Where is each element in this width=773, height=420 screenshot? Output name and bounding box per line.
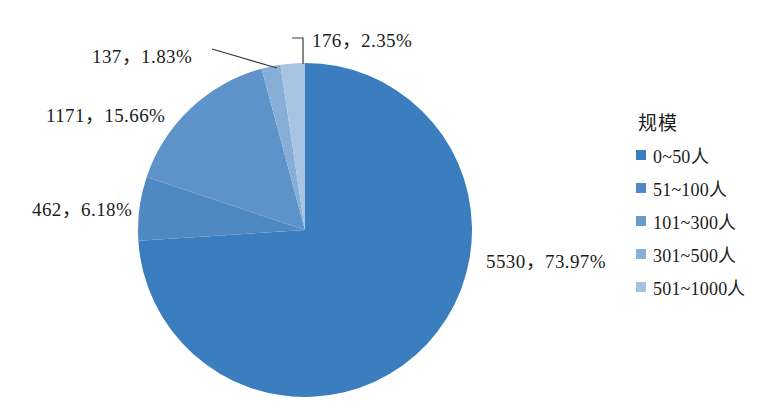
legend-title: 规模	[638, 108, 771, 135]
leader-line-176	[292, 38, 303, 64]
slice-label-51-100: 462，6.18%	[32, 194, 132, 221]
legend-swatch-icon	[636, 282, 646, 292]
legend-item-label: 101~300人	[653, 208, 736, 234]
slice-label-301-500: 137，1.83%	[92, 41, 192, 68]
legend-swatch-icon	[636, 150, 646, 160]
legend-item-label: 0~50人	[653, 142, 709, 168]
legend-item-label: 501~1000人	[653, 274, 746, 300]
leader-lines-group	[212, 38, 303, 68]
legend-item[interactable]: 0~50人	[636, 145, 771, 165]
slice-label-0-50: 5530，73.97%	[486, 246, 606, 273]
legend-item-label: 51~100人	[653, 175, 727, 201]
pie-slices-group	[138, 63, 472, 397]
legend-items: 0~50人51~100人101~300人301~500人501~1000人	[636, 145, 771, 297]
slice-label-501-1000: 176，2.35%	[312, 25, 412, 52]
legend-swatch-icon	[636, 216, 646, 226]
leader-line-137	[212, 49, 277, 68]
legend-item[interactable]: 301~500人	[636, 244, 771, 264]
pie-chart-figure: 176，2.35% 137，1.83% 1171，15.66% 462，6.18…	[0, 0, 773, 420]
legend-item[interactable]: 501~1000人	[636, 277, 771, 297]
legend-swatch-icon	[636, 249, 646, 259]
legend-item-label: 301~500人	[653, 241, 736, 267]
legend-swatch-icon	[636, 183, 646, 193]
slice-label-101-300: 1171，15.66%	[46, 100, 165, 127]
legend-item[interactable]: 51~100人	[636, 178, 771, 198]
legend-item[interactable]: 101~300人	[636, 211, 771, 231]
legend: 规模 0~50人51~100人101~300人301~500人501~1000人	[636, 108, 771, 310]
